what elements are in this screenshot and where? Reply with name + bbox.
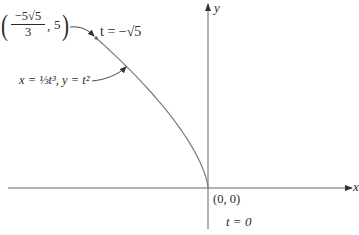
coord-separator: ,	[47, 18, 50, 34]
y-axis-label: y	[214, 0, 220, 16]
coord-y-value: 5	[54, 17, 61, 33]
curve-equation-label: x = ⅓t³, y = t²	[19, 73, 90, 88]
start-point-leader	[70, 27, 94, 36]
right-paren: )	[62, 10, 69, 40]
start-parameter-label: t = −√5	[100, 24, 141, 40]
left-paren: (	[1, 10, 8, 40]
start-point-marker	[94, 36, 98, 40]
origin-coordinate-label: (0, 0)	[213, 192, 240, 207]
equation-leader	[92, 67, 126, 81]
coord-x-denominator: 3	[11, 25, 45, 40]
parametric-curve	[96, 38, 208, 188]
origin-parameter-label: t = 0	[226, 214, 251, 230]
x-axis-label: x	[353, 179, 359, 195]
coord-x-fraction: −5√5 3	[11, 8, 45, 40]
coord-x-numerator: −5√5	[11, 8, 45, 25]
